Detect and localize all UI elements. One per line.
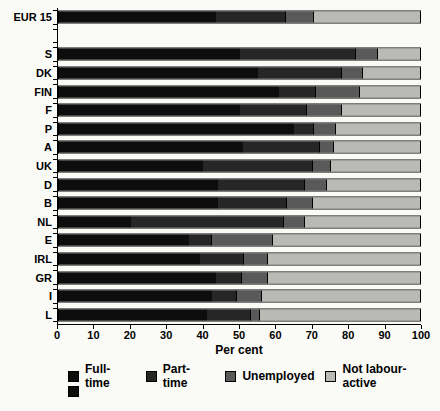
- stacked-bar: [58, 104, 421, 117]
- legend-item-unemployed: Unemployed: [225, 369, 314, 383]
- bar-row: I: [58, 287, 421, 306]
- stacked-bar: [58, 308, 421, 321]
- bar-row: NL: [58, 213, 421, 232]
- stacked-bar: [58, 197, 421, 210]
- bar-segment-full-time: [59, 198, 218, 209]
- bar-row: S: [58, 45, 421, 64]
- bar-segment-part-time: [216, 12, 285, 23]
- x-axis-tick-label: 70: [306, 329, 318, 341]
- x-axis-tick-label: 0: [54, 329, 60, 341]
- bar-row: GR: [58, 268, 421, 287]
- bar-segment-not-labour-active: [362, 68, 420, 79]
- bar-segment-unemployed: [211, 235, 272, 246]
- bar-segment-unemployed: [341, 68, 363, 79]
- stacked-bar: [58, 178, 421, 191]
- legend-label: Full-time: [85, 362, 135, 390]
- bar-segment-unemployed: [312, 161, 330, 172]
- bar-segment-not-labour-active: [330, 161, 420, 172]
- bar-segment-part-time: [131, 216, 283, 227]
- bar-segment-not-labour-active: [333, 142, 420, 153]
- bar-segment-part-time: [218, 179, 305, 190]
- plot-rows: EUR 15SDKFINFPAUKDBNLEIRLGRIL: [57, 8, 421, 325]
- x-axis-tick-label: 40: [196, 329, 208, 341]
- bar-segment-full-time: [59, 123, 294, 134]
- bar-row: B: [58, 194, 421, 213]
- bar-segment-full-time: [59, 272, 216, 283]
- legend-swatch: [225, 371, 236, 382]
- bar-row: UK: [58, 157, 421, 176]
- x-axis-tick-label: 80: [342, 329, 354, 341]
- bar-segment-full-time: [59, 309, 207, 320]
- bar-segment-part-time: [243, 142, 319, 153]
- bar-segment-unemployed: [243, 254, 266, 265]
- bar-segment-part-time: [279, 86, 315, 97]
- x-axis-tick-label: 10: [87, 329, 99, 341]
- category-label: F: [45, 104, 52, 116]
- bar-segment-full-time: [59, 254, 200, 265]
- plot-area: EUR 15SDKFINFPAUKDBNLEIRLGRIL: [57, 8, 421, 325]
- bar-segment-unemployed: [250, 309, 259, 320]
- legend-swatch: [325, 371, 336, 382]
- bar-row: IRL: [58, 250, 421, 269]
- legend-swatch: [68, 371, 79, 382]
- bar-segment-not-labour-active: [359, 86, 420, 97]
- category-label: FIN: [34, 86, 52, 98]
- bar-segment-part-time: [258, 68, 341, 79]
- stacked-bar: [58, 48, 421, 61]
- category-label: P: [45, 123, 52, 135]
- legend-item-not-labour-active: Not labour-active: [325, 362, 440, 390]
- bar-segment-full-time: [59, 86, 279, 97]
- x-axis-tick-label: 60: [269, 329, 281, 341]
- stacked-bar: [58, 234, 421, 247]
- bar-segment-not-labour-active: [272, 235, 420, 246]
- bar-segment-not-labour-active: [341, 105, 420, 116]
- bar-segment-part-time: [240, 49, 356, 60]
- bar-segment-full-time: [59, 49, 240, 60]
- bar-segment-not-labour-active: [335, 123, 420, 134]
- stacked-bar: [58, 160, 421, 173]
- bar-segment-unemployed: [236, 291, 261, 302]
- legend-extra-swatch: [68, 386, 79, 397]
- x-axis-tick-label: 50: [233, 329, 245, 341]
- x-axis-tick-label: 100: [412, 329, 430, 341]
- x-axis-tick-label: 30: [160, 329, 172, 341]
- category-label: D: [44, 179, 52, 191]
- bar-segment-full-time: [59, 216, 131, 227]
- legend: Full-timePart-timeUnemployedNot labour-a…: [68, 362, 440, 390]
- bar-segment-part-time: [218, 198, 287, 209]
- stacked-bar: [58, 85, 421, 98]
- x-axis: 0102030405060708090100: [57, 325, 421, 343]
- bar-segment-full-time: [59, 179, 218, 190]
- bar-segment-not-labour-active: [312, 198, 420, 209]
- category-label: E: [45, 234, 52, 246]
- y-axis-tick: [53, 42, 58, 43]
- x-axis-tick-label: 20: [124, 329, 136, 341]
- x-axis-tick-label: 90: [378, 329, 390, 341]
- stacked-bar: [58, 253, 421, 266]
- bar-row: E: [58, 231, 421, 250]
- category-label: I: [49, 290, 52, 302]
- bar-segment-part-time: [207, 309, 250, 320]
- category-label: B: [44, 197, 52, 209]
- bar-segment-unemployed: [315, 86, 358, 97]
- bar-segment-not-labour-active: [313, 12, 419, 23]
- bar-segment-not-labour-active: [267, 254, 420, 265]
- bar-segment-unemployed: [355, 49, 377, 60]
- stacked-bar: [58, 215, 421, 228]
- bar-segment-unemployed: [285, 12, 314, 23]
- bar-row-spacer: [58, 27, 421, 46]
- bar-segment-unemployed: [241, 272, 266, 283]
- bar-segment-not-labour-active: [377, 49, 420, 60]
- bar-segment-unemployed: [306, 105, 340, 116]
- bar-segment-not-labour-active: [259, 309, 420, 320]
- bar-segment-full-time: [59, 291, 212, 302]
- bar-segment-part-time: [212, 291, 235, 302]
- category-label: IRL: [34, 253, 52, 265]
- stacked-bar: [58, 11, 421, 24]
- bar-segment-not-labour-active: [304, 216, 420, 227]
- category-label: L: [45, 309, 52, 321]
- bar-segment-full-time: [59, 68, 258, 79]
- category-label: DK: [36, 67, 52, 79]
- stacked-bar: [58, 122, 421, 135]
- bar-segment-part-time: [294, 123, 314, 134]
